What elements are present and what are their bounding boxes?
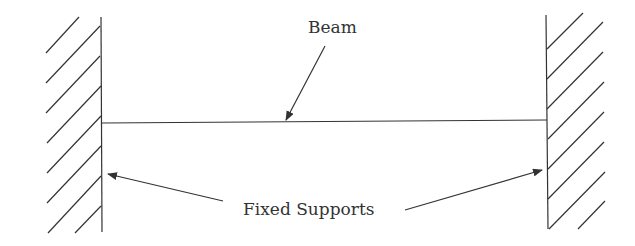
beam-label: Beam	[308, 17, 357, 37]
fixed-supports-label: Fixed Supports	[243, 199, 374, 219]
left-support-arrow	[108, 174, 223, 201]
left-wall-line	[101, 17, 102, 232]
beam-line	[102, 120, 547, 123]
right-support-arrow	[405, 170, 542, 210]
left-hatching	[46, 17, 101, 233]
right-wall-line	[546, 15, 548, 229]
fixed-beam-diagram: Beam Fixed Supports	[0, 0, 635, 246]
left-fixed-support	[46, 17, 102, 233]
right-fixed-support	[546, 13, 605, 229]
right-hatching	[547, 13, 605, 229]
beam-arrow	[286, 46, 325, 120]
